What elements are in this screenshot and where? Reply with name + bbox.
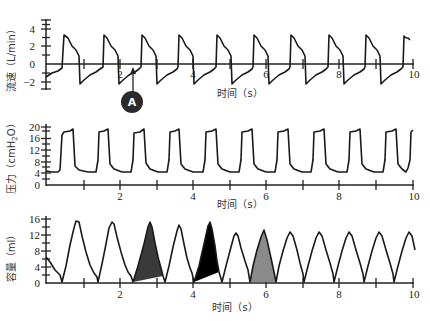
annotation-marker-label: A — [128, 96, 137, 109]
shaded-breath-gray — [250, 230, 276, 282]
pressure-xtick: 10 — [409, 190, 421, 202]
pressure-xlabel: 时间（s） — [217, 198, 262, 210]
volume-ylabel: 容量（ml） — [5, 230, 17, 283]
flow-ytick: 4 — [30, 23, 36, 35]
volume-ytick: 12 — [29, 229, 40, 241]
volume-xtick: 8 — [336, 288, 342, 300]
flow-ytick: 2 — [30, 40, 36, 52]
volume-ytick: 8 — [35, 245, 41, 257]
pressure-curve — [46, 129, 413, 172]
pressure-ylabel: 压力（cmH2O） — [5, 118, 19, 193]
annotation-arrow-head-icon — [130, 67, 136, 74]
pressure-xtick: 8 — [336, 190, 342, 202]
flow-xlabel: 时间（s） — [217, 87, 262, 99]
flow-curve-end — [406, 38, 410, 40]
volume-plot: 容量（ml） 16 12 8 4 0 — [5, 213, 420, 313]
pressure-plot: 压力（cmH2O） 20 16 12 8 4 0 — [5, 118, 420, 210]
flow-ylabel: 流速（L/min） — [5, 24, 17, 92]
volume-xtick: 4 — [190, 288, 196, 300]
pressure-ylabel-main: 压力（cmH — [5, 141, 17, 194]
pressure-ytick: 4 — [35, 167, 41, 179]
ventilator-waveforms-figure: 流速（L/min） 4 2 0 −2 — [0, 0, 430, 321]
volume-xlabel: 时间（s） — [212, 301, 257, 313]
flow-xtick: 8 — [336, 68, 342, 80]
flow-plot: 流速（L/min） 4 2 0 −2 — [5, 19, 420, 113]
pressure-xtick: 4 — [190, 190, 196, 202]
flow-xtick: 10 — [409, 68, 421, 80]
volume-xtick: 10 — [409, 288, 421, 300]
pressure-xtick: 6 — [263, 190, 269, 202]
volume-ytick: 16 — [29, 213, 41, 225]
volume-xtick: 6 — [263, 288, 269, 300]
pressure-xtick: 2 — [117, 190, 123, 202]
pressure-ytick: 0 — [35, 179, 41, 191]
flow-ytick: −2 — [23, 76, 35, 88]
pressure-ytick: 16 — [29, 132, 41, 144]
volume-ytick: 0 — [35, 277, 41, 289]
volume-xtick: 2 — [117, 288, 123, 300]
pressure-ylabel-end: O） — [6, 118, 17, 136]
pressure-ytick: 12 — [29, 144, 40, 156]
shaded-breath-dark — [133, 222, 163, 282]
flow-ytick: 0 — [30, 58, 36, 70]
volume-ytick: 4 — [35, 261, 41, 273]
flow-curve — [46, 35, 406, 84]
volume-curve — [46, 221, 415, 282]
